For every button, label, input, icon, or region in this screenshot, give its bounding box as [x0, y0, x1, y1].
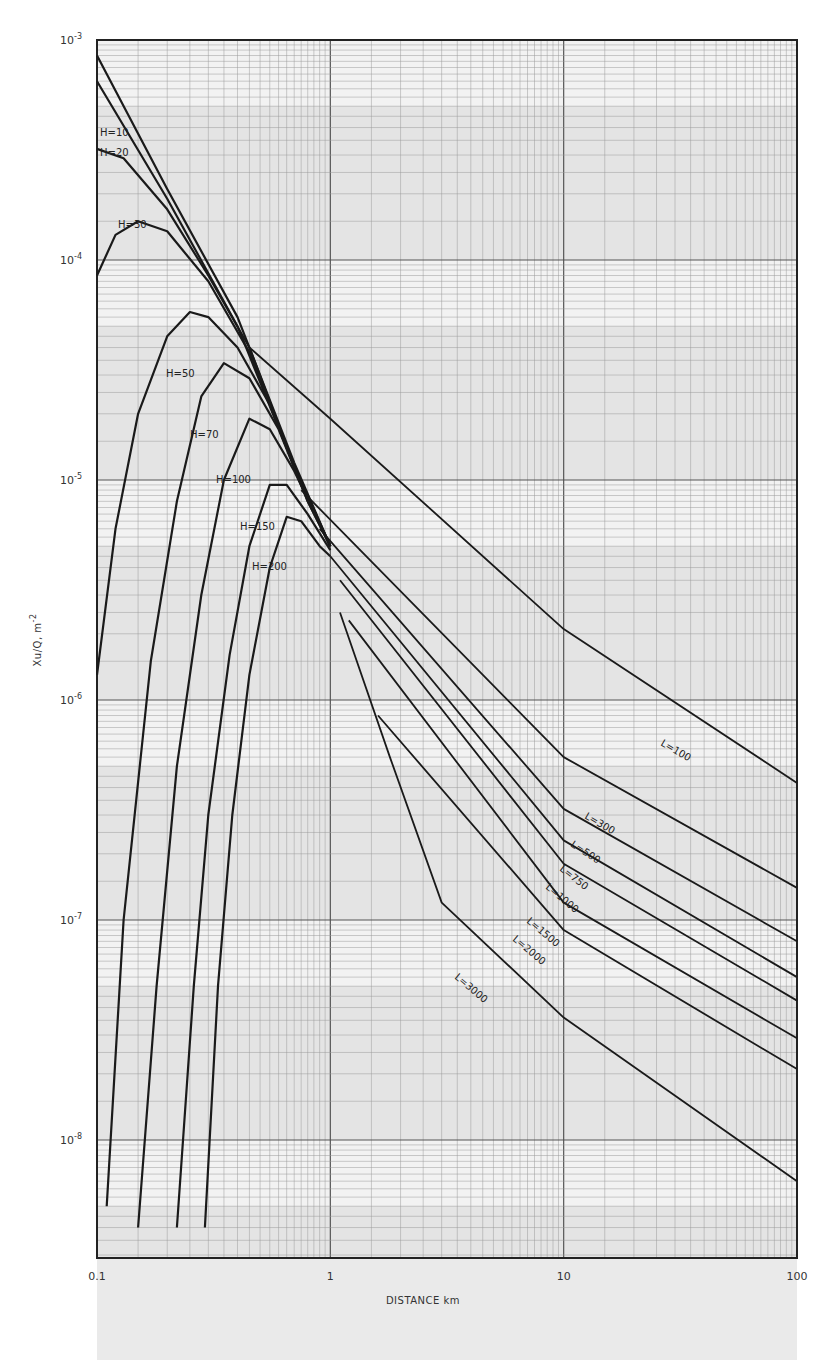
x-tick-label: 100	[787, 1270, 808, 1283]
label-h-150: H=150	[240, 521, 275, 532]
label-h-200: H=200	[252, 561, 287, 572]
y-tick-label: 10-4	[60, 252, 82, 267]
y-tick-label: 10-7	[60, 912, 82, 927]
x-tick-label: 0.1	[88, 1270, 106, 1283]
y-axis-title-exp: -2	[29, 613, 38, 622]
x-axis-title: DISTANCE km	[386, 1295, 460, 1306]
label-h-70: H=70	[190, 429, 219, 440]
x-tick-label: 1	[327, 1270, 334, 1283]
label-h-30: H=30	[118, 219, 147, 230]
label-h-100: H=100	[216, 474, 251, 485]
y-tick-label: 10-5	[60, 472, 82, 487]
y-axis-title-base: Xu/Q, m	[32, 622, 43, 666]
label-h-50: H=50	[166, 368, 195, 379]
svg-text:Xu/Q, m-2: Xu/Q, m-2	[29, 613, 43, 666]
y-tick-label: 10-8	[60, 1132, 82, 1147]
y-tick-label: 10-3	[60, 32, 82, 47]
y-axis-title: Xu/Q, m-2	[29, 613, 43, 666]
y-axis-ticks: 10-310-410-510-610-710-8	[60, 32, 82, 1147]
label-h-20: H=20	[100, 147, 129, 158]
dispersion-chart: H=10H=20H=30H=50H=70H=100H=150H=200L=100…	[0, 0, 834, 1366]
label-h-10: H=10	[100, 127, 129, 138]
x-tick-label: 10	[557, 1270, 571, 1283]
y-tick-label: 10-6	[60, 692, 82, 707]
